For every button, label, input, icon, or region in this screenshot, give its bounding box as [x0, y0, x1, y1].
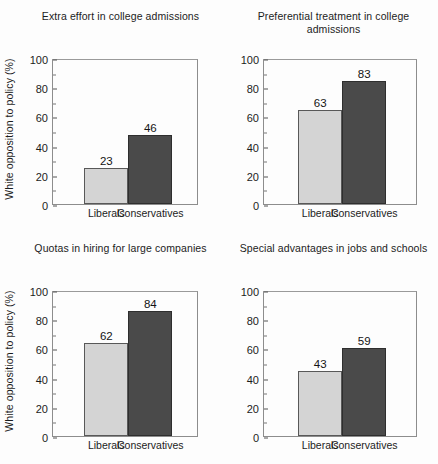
panel-title: Preferential treatment in college admiss…	[231, 10, 436, 36]
y-tick-label: 80	[36, 315, 53, 327]
bar-liberals: 23	[84, 168, 128, 204]
bar-value-label: 63	[314, 97, 327, 109]
y-tick-label: 0	[253, 432, 264, 444]
x-axis-labels: LiberalsConservatives	[53, 436, 197, 454]
y-axis-label: White opposition to policy (%)	[0, 278, 18, 444]
bar-group: 6383	[264, 60, 416, 204]
y-tick-label: 20	[247, 403, 264, 415]
y-tick-label: 100	[30, 286, 53, 298]
plot-area: 0204060801006383LiberalsConservatives	[263, 59, 417, 205]
panel-title: Extra effort in college admissions	[26, 10, 215, 23]
x-axis-labels: LiberalsConservatives	[264, 204, 416, 222]
y-tick-label: 40	[247, 142, 264, 154]
bar-value-label: 43	[314, 358, 327, 370]
y-axis-label: White opposition to policy (%)	[0, 46, 18, 212]
y-tick-label: 0	[253, 200, 264, 212]
y-tick-label: 40	[247, 374, 264, 386]
x-tick-label: Conservatives	[117, 207, 184, 219]
bar-value-label: 84	[144, 298, 157, 310]
chart-panel-top-left: Extra effort in college admissionsWhite …	[0, 0, 219, 232]
y-tick-label: 80	[36, 83, 53, 95]
bar-chart-figure: Extra effort in college admissionsWhite …	[0, 0, 438, 464]
y-tick-label: 0	[42, 200, 53, 212]
y-tick-label: 40	[36, 374, 53, 386]
chart-panel-bottom-right: Special advantages in jobs and schools02…	[219, 232, 438, 464]
bar-group: 4359	[264, 292, 416, 436]
panel-title: Special advantages in jobs and schools	[231, 242, 436, 255]
bar-liberals: 62	[84, 343, 128, 436]
y-tick-label: 100	[30, 54, 53, 66]
bar-value-label: 83	[358, 68, 371, 80]
y-axis-label-text: White opposition to policy (%)	[3, 58, 15, 199]
bar-conservatives: 46	[128, 135, 172, 204]
x-axis-labels: LiberalsConservatives	[53, 204, 197, 222]
bar-value-label: 62	[100, 330, 113, 342]
bar-liberals: 63	[298, 110, 342, 204]
y-tick-label: 60	[247, 112, 264, 124]
bar-conservatives: 59	[342, 348, 386, 436]
y-tick-label: 40	[36, 142, 53, 154]
plot-area: 0204060801002346LiberalsConservatives	[52, 59, 198, 205]
x-tick-label: Conservatives	[331, 207, 398, 219]
chart-panel-bottom-left: Quotas in hiring for large companiesWhit…	[0, 232, 219, 464]
bar-value-label: 59	[358, 335, 371, 347]
bar-value-label: 46	[144, 122, 157, 134]
y-tick-label: 20	[247, 171, 264, 183]
bar-value-label: 23	[100, 155, 113, 167]
bar-group: 2346	[53, 60, 197, 204]
bar-conservatives: 83	[342, 81, 386, 204]
x-tick-label: Conservatives	[117, 439, 184, 451]
y-tick-label: 20	[36, 403, 53, 415]
y-tick-label: 80	[247, 315, 264, 327]
bar-liberals: 43	[298, 371, 342, 436]
bar-group: 6284	[53, 292, 197, 436]
chart-panel-top-right: Preferential treatment in college admiss…	[219, 0, 438, 232]
plot-area: 0204060801006284LiberalsConservatives	[52, 291, 198, 437]
y-tick-label: 0	[42, 432, 53, 444]
plot-area: 0204060801004359LiberalsConservatives	[263, 291, 417, 437]
panel-title: Quotas in hiring for large companies	[26, 242, 215, 255]
y-axis-label-text: White opposition to policy (%)	[3, 290, 15, 431]
bar-conservatives: 84	[128, 311, 172, 436]
x-tick-label: Conservatives	[331, 439, 398, 451]
y-tick-label: 60	[247, 344, 264, 356]
y-tick-label: 100	[241, 54, 264, 66]
y-tick-label: 60	[36, 344, 53, 356]
y-tick-label: 100	[241, 286, 264, 298]
y-tick-label: 80	[247, 83, 264, 95]
y-tick-label: 20	[36, 171, 53, 183]
y-tick-label: 60	[36, 112, 53, 124]
x-axis-labels: LiberalsConservatives	[264, 436, 416, 454]
